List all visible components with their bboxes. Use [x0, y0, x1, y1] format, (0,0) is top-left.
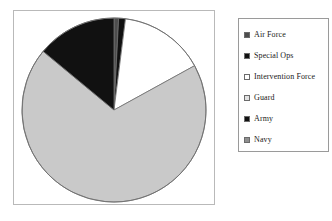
legend-label-navy: Navy	[254, 135, 272, 144]
legend-item-army[interactable]: Army	[244, 108, 328, 129]
legend-swatch-navy	[244, 137, 250, 143]
legend-swatch-intervention-force	[244, 74, 250, 80]
legend-item-air-force[interactable]: Air Force	[244, 24, 328, 45]
legend-label-guard: Guard	[254, 93, 275, 102]
legend-item-intervention-force[interactable]: Intervention Force	[244, 66, 328, 87]
pie-chart-figure: Air Force Special Ops Intervention Force…	[0, 0, 332, 221]
pie-svg	[14, 11, 214, 204]
pie-chart	[14, 11, 214, 204]
legend-label-special-ops: Special Ops	[254, 51, 294, 60]
plot-area	[13, 10, 215, 205]
legend-swatch-guard	[244, 95, 250, 101]
legend-label-air-force: Air Force	[254, 30, 286, 39]
legend-label-army: Army	[254, 114, 273, 123]
legend-item-navy[interactable]: Navy	[244, 129, 328, 150]
legend-swatch-army	[244, 116, 250, 122]
legend-item-guard[interactable]: Guard	[244, 87, 328, 108]
chart-legend: Air Force Special Ops Intervention Force…	[238, 18, 329, 152]
legend-swatch-air-force	[244, 32, 250, 38]
legend-item-special-ops[interactable]: Special Ops	[244, 45, 328, 66]
legend-swatch-special-ops	[244, 53, 250, 59]
legend-label-intervention-force: Intervention Force	[254, 72, 315, 81]
